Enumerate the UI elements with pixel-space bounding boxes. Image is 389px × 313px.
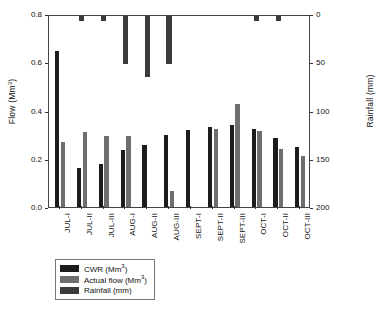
- bar-cwr: [208, 127, 212, 207]
- x-axis-tick-mark: [255, 206, 256, 209]
- x-axis-tick-mark: [190, 206, 191, 209]
- y-axis-right-tick-label: 0: [316, 10, 338, 19]
- y-axis-left-title: Flow (Mm3): [7, 61, 18, 141]
- bar-actual-flow: [279, 149, 283, 207]
- x-axis-tick-mark: [212, 206, 213, 209]
- bar-cwr: [186, 130, 190, 207]
- y-axis-left-title-exponent: 3: [7, 82, 13, 86]
- x-axis-tick-label: SEPT-I: [194, 213, 203, 239]
- bar-actual-flow: [214, 129, 218, 207]
- y-axis-right-tick-mark: [310, 112, 313, 113]
- y-axis-left-tick-label: 0.6: [20, 58, 42, 67]
- bar-actual-flow: [126, 136, 130, 207]
- bar-cwr: [164, 135, 168, 207]
- bar-rainfall: [254, 16, 259, 21]
- legend-item: Actual flow (Mm3): [60, 274, 147, 285]
- bar-cwr: [295, 147, 299, 207]
- y-axis-left-title-tail: ): [7, 79, 17, 82]
- x-axis-tick-label: OCT-III: [303, 213, 312, 239]
- bar-actual-flow: [235, 104, 239, 207]
- bar-rainfall: [166, 16, 171, 64]
- bar-cwr: [55, 51, 59, 207]
- y-axis-right-tick-label: 200: [316, 203, 338, 212]
- legend-label: Rainfall (mm): [84, 286, 132, 295]
- x-axis-tick-label: OCT-II: [281, 213, 290, 237]
- y-axis-left-tick-label: 0.8: [20, 10, 42, 19]
- bars-layer: [49, 16, 309, 207]
- y-axis-right-tick-mark: [310, 63, 313, 64]
- legend-label: Actual flow (Mm3): [84, 274, 147, 285]
- x-axis-tick-label: OCT-I: [259, 213, 268, 235]
- y-axis-right-title-base: Rainfall (mm): [365, 74, 375, 127]
- x-axis-tick-mark: [124, 206, 125, 209]
- bar-cwr: [230, 125, 234, 207]
- x-axis-tick-label: JUL-III: [107, 213, 116, 237]
- y-axis-right-tick-label: 100: [316, 107, 338, 116]
- bar-cwr: [121, 150, 125, 207]
- bar-actual-flow: [170, 191, 174, 207]
- bar-actual-flow: [301, 156, 305, 207]
- chart-legend: CWR (Mm3)Actual flow (Mm3)Rainfall (mm): [55, 259, 155, 300]
- bar-rainfall: [145, 16, 150, 77]
- x-axis-tick-mark: [59, 206, 60, 209]
- bar-actual-flow: [61, 142, 65, 207]
- bar-cwr: [273, 138, 277, 207]
- chart-figure: Flow (Mm3) Rainfall (mm) 0.00.20.40.60.8…: [0, 0, 389, 313]
- y-axis-left-title-base: Flow (Mm: [7, 85, 17, 124]
- x-axis-tick-label: SEPT-II: [216, 213, 225, 241]
- x-axis-tick-labels: JUL-IJUL-IIJUL-IIIAUG-IAUG-IIAUG-IIISEPT…: [48, 210, 310, 260]
- x-axis-tick-mark: [146, 206, 147, 209]
- legend-item: Rainfall (mm): [60, 285, 147, 296]
- y-axis-right-tick-mark: [310, 208, 313, 209]
- bar-cwr: [77, 168, 81, 207]
- y-axis-right-tick-label: 50: [316, 58, 338, 67]
- bar-rainfall: [101, 16, 106, 21]
- bar-rainfall: [123, 16, 128, 64]
- y-axis-left-tick-label: 0.2: [20, 155, 42, 164]
- x-axis-tick-mark: [81, 206, 82, 209]
- y-axis-right-title: Rainfall (mm): [365, 61, 375, 141]
- y-axis-right-tick-mark: [310, 160, 313, 161]
- x-axis-tick-mark: [168, 206, 169, 209]
- bar-rainfall: [276, 16, 281, 21]
- bar-actual-flow: [83, 132, 87, 207]
- x-axis-tick-label: AUG-I: [128, 213, 137, 236]
- bar-cwr: [99, 164, 103, 207]
- x-axis-tick-mark: [234, 206, 235, 209]
- legend-swatch: [60, 265, 79, 272]
- legend-swatch: [60, 287, 79, 294]
- bar-actual-flow: [257, 131, 261, 207]
- legend-item: CWR (Mm3): [60, 263, 147, 274]
- y-axis-right-tick-mark: [310, 15, 313, 16]
- x-axis-tick-mark: [277, 206, 278, 209]
- bar-cwr: [252, 129, 256, 207]
- x-axis-tick-label: JUL-II: [85, 213, 94, 235]
- y-axis-left-tick-mark: [45, 208, 48, 209]
- legend-swatch: [60, 276, 79, 283]
- bar-actual-flow: [104, 136, 108, 207]
- bar-cwr: [142, 145, 146, 207]
- bar-rainfall: [79, 16, 84, 21]
- x-axis-tick-mark: [299, 206, 300, 209]
- plot-area: [48, 15, 310, 208]
- y-axis-left-tick-label: 0.4: [20, 107, 42, 116]
- x-axis-tick-label: AUG-III: [172, 213, 181, 240]
- legend-label: CWR (Mm3): [84, 263, 127, 274]
- x-axis-tick-label: JUL-I: [63, 213, 72, 233]
- y-axis-left-tick-label: 0.0: [20, 203, 42, 212]
- y-axis-right-tick-label: 150: [316, 155, 338, 164]
- x-axis-tick-label: SEPT-III: [238, 213, 247, 244]
- x-axis-tick-mark: [103, 206, 104, 209]
- x-axis-tick-label: AUG-II: [150, 213, 159, 238]
